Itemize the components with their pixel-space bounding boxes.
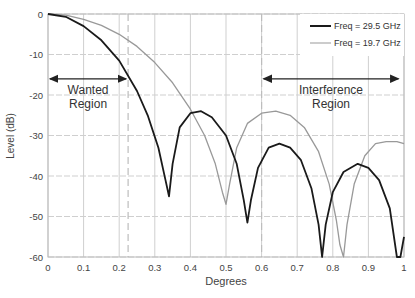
x-tick-label: 0.7 bbox=[291, 262, 304, 273]
region-label: Wanted bbox=[68, 83, 109, 97]
x-axis-ticks: 00.10.20.30.40.50.60.70.80.91 bbox=[45, 262, 406, 273]
y-tick-label: -40 bbox=[29, 171, 43, 182]
x-tick-label: 0.9 bbox=[362, 262, 375, 273]
region-label: Interference bbox=[299, 83, 363, 97]
x-tick-label: 0.1 bbox=[77, 262, 90, 273]
y-axis-label: Level (dB) bbox=[5, 113, 16, 159]
legend-label-29-5ghz: Freq = 29.5 GHz bbox=[334, 21, 401, 31]
legend-label-19-7ghz: Freq = 19.7 GHz bbox=[334, 38, 401, 48]
x-tick-label: 0.3 bbox=[148, 262, 161, 273]
y-axis-ticks: 0-10-20-30-40-50-60 bbox=[29, 9, 43, 263]
x-tick-label: 1 bbox=[401, 262, 406, 273]
x-tick-label: 0 bbox=[45, 262, 50, 273]
region-label: Region bbox=[69, 97, 107, 111]
y-tick-label: -20 bbox=[29, 90, 43, 101]
y-tick-label: -50 bbox=[29, 211, 43, 222]
y-tick-label: -60 bbox=[29, 252, 43, 263]
y-tick-label: 0 bbox=[38, 9, 43, 20]
y-tick-label: -30 bbox=[29, 130, 43, 141]
x-tick-label: 0.6 bbox=[255, 262, 268, 273]
x-axis-label: Degrees bbox=[205, 275, 247, 287]
x-tick-label: 0.2 bbox=[113, 262, 126, 273]
line-chart: 0-10-20-30-40-50-60 00.10.20.30.40.50.60… bbox=[0, 0, 415, 298]
x-tick-label: 0.4 bbox=[184, 262, 197, 273]
legend: Freq = 29.5 GHz Freq = 19.7 GHz bbox=[300, 14, 404, 56]
y-tick-label: -10 bbox=[29, 49, 43, 60]
x-tick-label: 0.8 bbox=[326, 262, 339, 273]
region-label: Region bbox=[312, 97, 350, 111]
x-tick-label: 0.5 bbox=[219, 262, 232, 273]
